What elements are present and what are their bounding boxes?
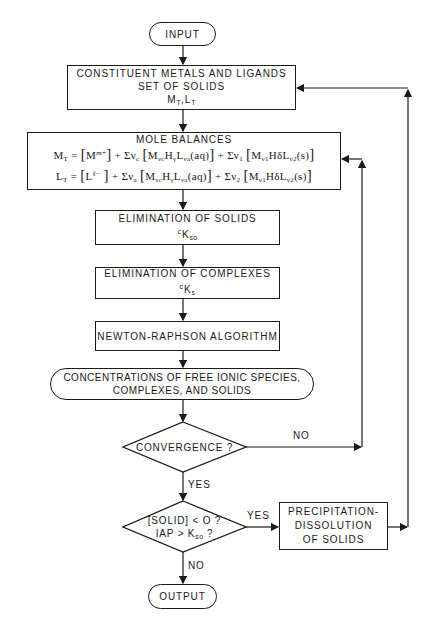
elimination-solids-label: ELIMINATION OF SOLIDS <box>118 212 256 225</box>
elimination-complexes-box: ELIMINATION OF COMPLEXES cKs <box>95 267 280 299</box>
convergence-no-label: NO <box>293 430 310 441</box>
solid-check-line2: IAP > Kso ? <box>123 527 246 543</box>
cks-constant: cKs <box>180 280 196 299</box>
newton-raphson-label: NEWTON-RAPHSON ALGORITHM <box>97 330 277 343</box>
convergence-decision: CONVERGENCE ? <box>123 441 246 454</box>
precipitation-line2: DISSOLUTION <box>295 519 373 533</box>
output-terminal: OUTPUT <box>148 584 217 609</box>
constituents-line2: SET OF SOLIDS <box>138 80 225 93</box>
precipitation-line3: OF SOLIDS <box>303 533 364 547</box>
output-label: OUTPUT <box>159 590 206 603</box>
convergence-label: CONVERGENCE ? <box>136 442 233 453</box>
newton-raphson-box: NEWTON-RAPHSON ALGORITHM <box>95 321 280 351</box>
convergence-yes-label: YES <box>188 479 211 490</box>
input-terminal: INPUT <box>149 22 216 46</box>
ligand-balance-equation: LT = [Lℓ− ] + Σνa [MνcHγLνa(aq)] + Σν2 [… <box>56 167 312 188</box>
precipitation-dissolution-box: PRECIPITATION- DISSOLUTION OF SOLIDS <box>279 502 388 550</box>
solid-yes-label: YES <box>247 510 270 521</box>
ckso-constant: cKso <box>178 225 198 244</box>
concentrations-box: CONCENTRATIONS OF FREE IONIC SPECIES, CO… <box>50 368 314 400</box>
mole-balances-title: MOLE BALANCES <box>136 134 232 146</box>
concentrations-line2: COMPLEXES, AND SOLIDS <box>113 384 251 397</box>
solid-no-label: NO <box>188 560 205 571</box>
input-label: INPUT <box>165 28 200 41</box>
solid-check-line1: [SOLID] < O ? <box>123 514 246 527</box>
metal-balance-equation: MT = [Mm+] + Σνc [MνcHγLνa(aq)] + Σν1 [M… <box>53 146 314 167</box>
mole-balances-box: MOLE BALANCES MT = [Mm+] + Σνc [MνcHγLνa… <box>27 132 341 190</box>
constituents-box: CONSTITUENT METALS AND LIGANDS SET OF SO… <box>67 65 296 110</box>
precipitation-line1: PRECIPITATION- <box>288 505 379 519</box>
solid-check-decision: [SOLID] < O ? IAP > Kso ? <box>123 514 246 543</box>
elimination-complexes-label: ELIMINATION OF COMPLEXES <box>104 267 270 280</box>
elimination-solids-box: ELIMINATION OF SOLIDS cKso <box>95 210 280 245</box>
constituents-line1: CONSTITUENT METALS AND LIGANDS <box>77 67 287 80</box>
concentrations-line1: CONCENTRATIONS OF FREE IONIC SPECIES, <box>63 371 300 384</box>
constituents-totals: MT,LT <box>167 93 196 109</box>
